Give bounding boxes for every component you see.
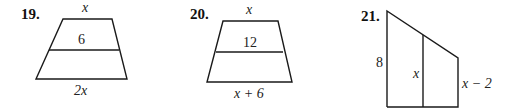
bottom-label-20: x + 6 [234, 87, 264, 101]
problem-number-19: 19. [21, 6, 40, 23]
top-label-19: x [82, 1, 88, 15]
midsegment-label-19: 6 [78, 33, 85, 47]
exercise-figures: 19. x 6 2x 20. x 12 x + 6 21. 8 x x − 2 [0, 0, 516, 108]
left-label-21: 8 [376, 56, 383, 70]
right-label-21: x − 2 [462, 77, 492, 91]
midsegment-label-20: 12 [243, 36, 257, 50]
trapezoid-19 [36, 19, 127, 79]
problem-number-21: 21. [361, 8, 380, 25]
top-label-20: x [246, 3, 252, 17]
middle-label-21: x [413, 67, 419, 81]
problem-number-20: 20. [190, 6, 209, 23]
bottom-label-19: 2x [74, 84, 87, 98]
